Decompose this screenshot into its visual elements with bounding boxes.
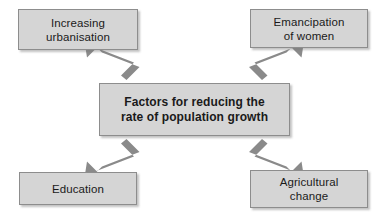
node-label: Factors for reducing the rate of populat… — [117, 95, 272, 125]
concept-diagram: Increasing urbanisation Emancipation of … — [0, 0, 388, 218]
node-education: Education — [19, 172, 137, 205]
node-label: Education — [48, 182, 108, 196]
node-label: Emancipation of women — [270, 15, 349, 43]
node-emancipation-of-women: Emancipation of women — [250, 9, 368, 48]
node-center-factors: Factors for reducing the rate of populat… — [99, 83, 290, 136]
node-label: Agricultural change — [276, 175, 343, 203]
node-agricultural-change: Agricultural change — [250, 170, 368, 208]
node-label: Increasing urbanisation — [42, 16, 114, 44]
node-increasing-urbanisation: Increasing urbanisation — [18, 9, 138, 50]
